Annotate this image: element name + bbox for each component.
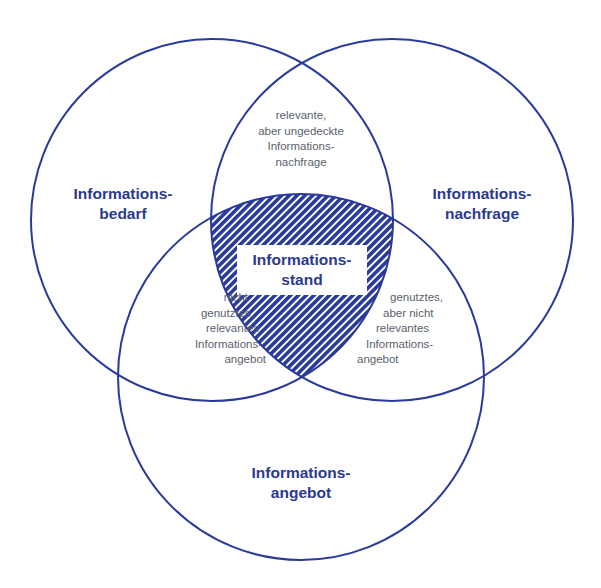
label-genutztes-nicht-relevantes-angebot: genutztes, aber nicht relevantes Informa… <box>340 290 460 368</box>
label-informationsstand: Informations- stand <box>237 250 367 290</box>
label-informationsangebot: Informations- angebot <box>240 463 362 503</box>
label-informationsbedarf: Informations- bedarf <box>62 184 184 224</box>
label-informationsnachfrage: Informations- nachfrage <box>421 184 543 224</box>
label-nicht-genutztes-angebot: nicht genutztes, relevantes Informations… <box>146 290 266 368</box>
label-relevante-ungedeckte-nachfrage: relevante, aber ungedeckte Informations-… <box>236 108 366 170</box>
